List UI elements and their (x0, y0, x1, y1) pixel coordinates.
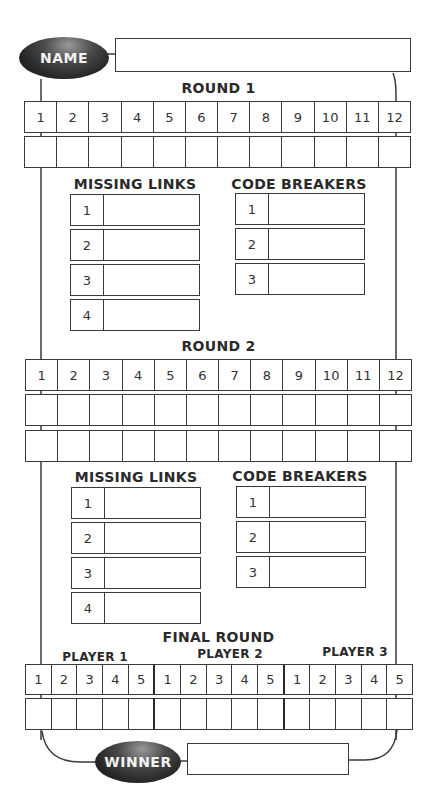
round2-missing-link-answer-field[interactable] (105, 593, 200, 623)
round1-answer-cell[interactable] (186, 137, 218, 167)
round2-number-cell: 2 (58, 360, 90, 390)
round1-answer-cell[interactable] (282, 137, 314, 167)
round1-missing-link-entry: 4 (70, 299, 200, 331)
round1-answer-cell[interactable] (218, 137, 250, 167)
round2-answer-cell[interactable] (316, 395, 348, 425)
round2-number-row: 123456789101112 (25, 359, 412, 391)
round1-answer-cell[interactable] (154, 137, 186, 167)
player3-answer-cell[interactable] (387, 699, 412, 729)
player1-answer-cell[interactable] (77, 699, 103, 729)
round1-number-cell: 4 (122, 102, 154, 132)
round1-answer-cell[interactable] (250, 137, 282, 167)
player3-label: PLAYER 3 (305, 645, 405, 659)
round2-answer-cell[interactable] (123, 431, 155, 461)
round1-missing-link-number: 3 (71, 265, 104, 295)
round2-number-cell: 3 (90, 360, 122, 390)
round2-answer-cell[interactable] (155, 431, 187, 461)
player2-answer-cell[interactable] (232, 699, 258, 729)
round2-missing-link-answer-field[interactable] (105, 488, 200, 518)
round1-missing-link-entry: 3 (70, 264, 200, 296)
round2-code-breaker-entry: 3 (236, 556, 366, 588)
round2-number-cell: 10 (316, 360, 348, 390)
round1-answer-cell[interactable] (347, 137, 379, 167)
player2-answer-cell[interactable] (181, 699, 207, 729)
round2-answer-cell[interactable] (90, 431, 122, 461)
round1-answer-cell[interactable] (379, 137, 410, 167)
round2-missing-link-answer-field[interactable] (105, 558, 200, 588)
player1-answer-cell[interactable] (103, 699, 129, 729)
round2-answer-cell[interactable] (187, 431, 219, 461)
player2-answer-cell[interactable] (258, 699, 285, 729)
round2-code-breaker-answer-field[interactable] (270, 557, 365, 587)
round2-answer-cell[interactable] (90, 395, 122, 425)
round1-number-cell: 7 (218, 102, 250, 132)
round2-answer-cell[interactable] (251, 431, 283, 461)
round1-code-breaker-answer-field[interactable] (269, 264, 364, 294)
round2-missing-link-number: 3 (72, 558, 105, 588)
round1-title: ROUND 1 (0, 80, 437, 96)
round2-answer-cell[interactable] (251, 395, 283, 425)
round2-answer-cell[interactable] (283, 395, 315, 425)
round2-answer-cell[interactable] (187, 395, 219, 425)
round2-answer-cell[interactable] (316, 431, 348, 461)
winner-input[interactable] (187, 743, 349, 775)
player3-answer-cell[interactable] (336, 699, 362, 729)
round2-answer-cell[interactable] (283, 431, 315, 461)
round1-answer-cell[interactable] (89, 137, 121, 167)
round2-answer-cell[interactable] (26, 395, 58, 425)
player3-answer-cell[interactable] (310, 699, 336, 729)
round2-answer-cell[interactable] (219, 395, 251, 425)
player2-answer-cell[interactable] (155, 699, 181, 729)
round2-code-breaker-number: 2 (237, 522, 270, 552)
round1-missing-link-entry: 1 (70, 194, 200, 226)
round1-code-breaker-answer-field[interactable] (269, 194, 364, 224)
round2-answer-cell[interactable] (26, 431, 58, 461)
name-label: NAME (40, 50, 88, 66)
round2-answer-cell[interactable] (123, 395, 155, 425)
round2-code-breaker-answer-field[interactable] (270, 487, 365, 517)
round1-code-breaker-answer-field[interactable] (269, 229, 364, 259)
round2-missing-link-answer-field[interactable] (105, 523, 200, 553)
round1-missing-link-answer-field[interactable] (104, 230, 199, 260)
round2-answer-cell[interactable] (219, 431, 251, 461)
round1-missing-link-answer-field[interactable] (104, 300, 199, 330)
player3-answer-cell[interactable] (285, 699, 311, 729)
round1-code-breaker-number: 1 (236, 194, 269, 224)
round2-answer-cell[interactable] (380, 431, 411, 461)
round1-code-breaker-entry: 2 (235, 228, 365, 260)
round1-missing-link-answer-field[interactable] (104, 265, 199, 295)
round1-number-cell: 3 (89, 102, 121, 132)
round2-answer-cell[interactable] (380, 395, 411, 425)
player2-answer-cell[interactable] (207, 699, 233, 729)
round1-answer-cell[interactable] (25, 137, 57, 167)
round2-answer-cell[interactable] (58, 431, 90, 461)
round2-code-breaker-answer-field[interactable] (270, 522, 365, 552)
player2-number-cell: 2 (181, 665, 207, 694)
name-input[interactable] (115, 38, 411, 72)
player1-answer-cell[interactable] (129, 699, 156, 729)
round1-answer-cell[interactable] (57, 137, 89, 167)
round2-number-cell: 1 (26, 360, 58, 390)
player1-answer-cell[interactable] (26, 699, 52, 729)
player2-number-cell: 5 (258, 665, 285, 694)
round1-missing-link-answer-field[interactable] (104, 195, 199, 225)
round2-missing-link-entry: 2 (71, 522, 201, 554)
round2-number-cell: 7 (219, 360, 251, 390)
round2-number-cell: 12 (380, 360, 411, 390)
player3-number-cell: 3 (336, 665, 362, 694)
round1-code-breaker-entry: 3 (235, 263, 365, 295)
player3-answer-cell[interactable] (362, 699, 388, 729)
round2-answer-cell[interactable] (58, 395, 90, 425)
round1-missing-link-number: 2 (71, 230, 104, 260)
round1-answer-cell[interactable] (315, 137, 347, 167)
round2-answer-cell[interactable] (155, 395, 187, 425)
round1-number-cell: 12 (379, 102, 410, 132)
round2-title: ROUND 2 (0, 338, 437, 354)
round1-number-cell: 11 (347, 102, 379, 132)
round2-answer-cell[interactable] (348, 431, 380, 461)
round2-answer-cell[interactable] (348, 395, 380, 425)
player1-answer-cell[interactable] (52, 699, 78, 729)
round1-answer-cell[interactable] (122, 137, 154, 167)
winner-badge: WINNER (95, 741, 181, 783)
round2-missing-link-number: 4 (72, 593, 105, 623)
